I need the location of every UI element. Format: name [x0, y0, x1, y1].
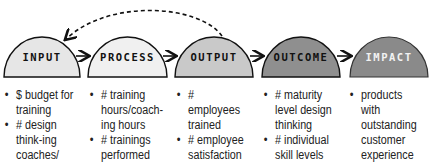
stage-label: INPUT: [22, 51, 61, 63]
stage-outcome: OUTCOME: [262, 37, 340, 77]
metric-item: # trainings performed: [89, 133, 160, 163]
metric-item: products with outstanding customer exper…: [349, 88, 420, 163]
stage-input-metrics: $ budget for training # design think-ing…: [4, 88, 75, 163]
metric-item: # maturity level design thinking: [263, 88, 334, 133]
stage-output-metrics: # employees trained # employee satisfact…: [176, 88, 247, 163]
metric-item: # design think-ing coaches/ trainers: [4, 118, 75, 163]
stage-output: OUTPUT: [175, 37, 253, 77]
stage-process-metrics: # training hours/coach-ing hours # train…: [89, 88, 160, 163]
stage-label: OUTPUT: [191, 51, 238, 63]
feedback-dashed-arrow: [66, 10, 222, 39]
stage-outcome-metrics: # maturity level design thinking # indiv…: [263, 88, 334, 163]
metric-item: $ budget for training: [4, 88, 75, 118]
flow-diagram: INPUT PROCESS OUTPUT OUTCOME IMPACT: [0, 0, 430, 90]
metric-item: # individual skill levels: [263, 133, 334, 163]
stage-label: OUTCOME: [274, 51, 329, 63]
metric-item: # employees trained: [176, 88, 247, 133]
metric-item: # employee satisfaction: [176, 133, 247, 163]
metric-item: # training hours/coach-ing hours: [89, 88, 160, 133]
stage-impact-metrics: products with outstanding customer exper…: [349, 88, 420, 163]
stage-process: PROCESS: [88, 37, 167, 77]
stage-label: IMPACT: [366, 51, 413, 63]
stage-label: PROCESS: [100, 51, 155, 63]
stage-impact: IMPACT: [350, 37, 428, 77]
stage-input: INPUT: [4, 37, 80, 77]
